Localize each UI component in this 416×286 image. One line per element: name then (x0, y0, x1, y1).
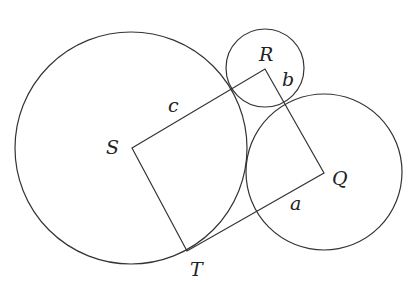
label-a: a (290, 192, 301, 214)
label-q: Q (332, 167, 348, 189)
circle-s (15, 32, 247, 264)
rectangle-srqt (132, 69, 324, 251)
label-s: S (106, 136, 119, 158)
label-t: T (190, 258, 204, 280)
geometry-diagram: S R Q T a b c (0, 0, 416, 286)
label-r: R (258, 43, 273, 65)
label-b: b (282, 68, 294, 90)
label-c: c (168, 94, 179, 116)
